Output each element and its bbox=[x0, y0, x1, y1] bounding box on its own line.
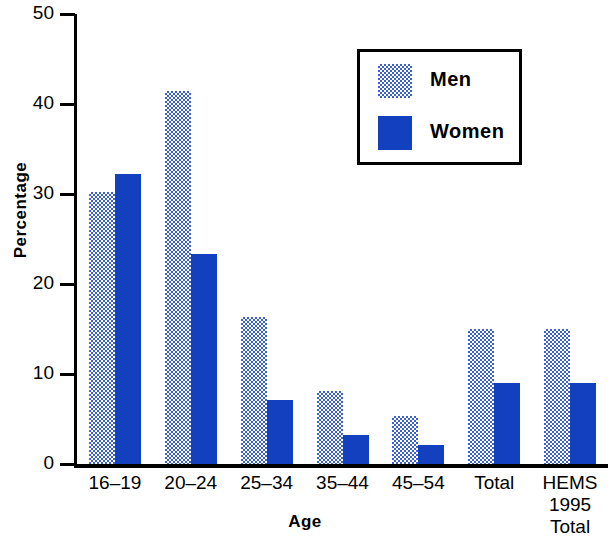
x-tick-label-3: 35–44 bbox=[305, 472, 381, 494]
x-axis-line bbox=[74, 464, 608, 468]
y-tick-40 bbox=[60, 103, 75, 106]
men-swatch-icon bbox=[378, 64, 412, 98]
y-tick-label-50: 50 bbox=[8, 3, 54, 22]
y-tick-0 bbox=[60, 463, 75, 466]
bar-men-4 bbox=[392, 416, 418, 468]
bar-women-1 bbox=[191, 254, 217, 468]
x-tick-label-4: 45–54 bbox=[380, 472, 456, 494]
legend-label-men: Men bbox=[430, 68, 472, 91]
x-tick-label-2: 25–34 bbox=[229, 472, 305, 494]
y-tick-label-40: 40 bbox=[8, 93, 54, 112]
women-swatch-icon bbox=[378, 116, 412, 150]
bar-women-5 bbox=[494, 383, 520, 469]
bar-women-6 bbox=[570, 383, 596, 469]
y-tick-label-0: 0 bbox=[8, 453, 54, 472]
x-axis-title: Age bbox=[0, 512, 610, 532]
bar-women-3 bbox=[343, 435, 369, 468]
bar-men-1 bbox=[165, 91, 191, 468]
bar-men-0 bbox=[89, 192, 115, 468]
y-tick-label-30: 30 bbox=[8, 183, 54, 202]
x-tick-label-1: 20–24 bbox=[153, 472, 229, 494]
x-tick-label-5: Total bbox=[456, 472, 532, 494]
legend: Men Women bbox=[357, 49, 522, 165]
x-tick-label-0: 16–19 bbox=[77, 472, 153, 494]
legend-label-women: Women bbox=[430, 120, 504, 143]
bar-men-3 bbox=[317, 391, 343, 468]
bar-men-6 bbox=[544, 329, 570, 469]
y-tick-10 bbox=[60, 373, 75, 376]
y-tick-50 bbox=[60, 13, 75, 16]
y-tick-20 bbox=[60, 283, 75, 286]
y-axis-line bbox=[74, 14, 77, 466]
bar-women-0 bbox=[115, 174, 141, 468]
y-tick-label-10: 10 bbox=[8, 363, 54, 382]
bar-men-2 bbox=[241, 317, 267, 468]
y-tick-label-20: 20 bbox=[8, 273, 54, 292]
bar-chart: Percentage 50403020100 16–1920–2425–3435… bbox=[0, 0, 610, 544]
y-axis-title: Percentage bbox=[11, 155, 31, 265]
y-tick-30 bbox=[60, 193, 75, 196]
bar-women-2 bbox=[267, 400, 293, 468]
bar-men-5 bbox=[468, 329, 494, 469]
